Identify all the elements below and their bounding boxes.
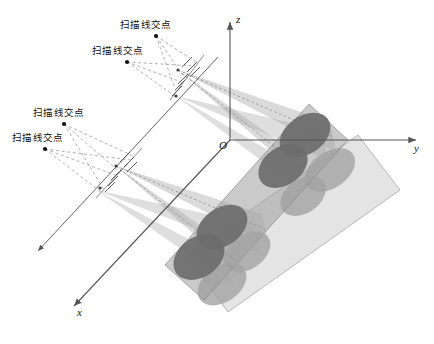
scan-point-dot-3 bbox=[62, 122, 66, 126]
z-axis-label: z bbox=[236, 13, 240, 25]
y-axis-label: y bbox=[414, 142, 419, 154]
scan-point-dot-2 bbox=[125, 60, 129, 64]
origin-label: O bbox=[219, 139, 227, 151]
ray-p3-a bbox=[64, 124, 133, 156]
scan-point-label-3: 扫描线交点 bbox=[33, 105, 85, 119]
diagram-canvas bbox=[0, 0, 434, 344]
ray-p4-a bbox=[45, 149, 131, 160]
scan-point-dot-1 bbox=[154, 34, 158, 38]
ray-p1-b bbox=[156, 36, 186, 80]
ray-p3-c bbox=[64, 124, 104, 190]
ray-p2-c bbox=[127, 62, 175, 96]
x-axis-label: x bbox=[77, 306, 82, 318]
ray-p3-b bbox=[64, 124, 120, 172]
ray-p1-a bbox=[156, 36, 196, 62]
scan-point-label-2: 扫描线交点 bbox=[92, 43, 144, 57]
scan-point-label-1: 扫描线交点 bbox=[120, 17, 172, 31]
scan-point-dot-4 bbox=[43, 147, 47, 151]
ray-p4-c bbox=[45, 149, 101, 192]
scan-line-intersection-diagram: 扫描线交点 扫描线交点 扫描线交点 扫描线交点 z y x O bbox=[0, 0, 434, 344]
scan-point-label-4: 扫描线交点 bbox=[12, 130, 64, 144]
